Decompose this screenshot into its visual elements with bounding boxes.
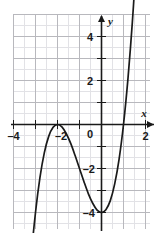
axes-lines: [11, 16, 154, 231]
major-gridlines: [13, 14, 150, 229]
graph-canvas: –4 –2 2 4 2 –2 –4 0 y x: [0, 0, 162, 233]
x-axis-label: x: [140, 107, 147, 119]
origin-label: 0: [87, 128, 93, 140]
x-tick-label-2: 2: [142, 130, 148, 142]
y-axis-arrow-icon: [98, 15, 105, 22]
y-tick-label-4: 4: [87, 31, 94, 43]
cubic-graph-figure: –4 –2 2 4 2 –2 –4 0 y x: [0, 0, 162, 233]
y-tick-label-minus2: –2: [83, 163, 95, 175]
x-tick-label-minus4: –4: [7, 130, 20, 142]
y-axis-label: y: [106, 15, 113, 27]
minor-gridlines: [13, 14, 150, 229]
x-axis-arrow-icon: [147, 121, 154, 128]
y-tick-label-minus4: –4: [83, 207, 96, 219]
y-tick-label-2: 2: [87, 75, 93, 87]
